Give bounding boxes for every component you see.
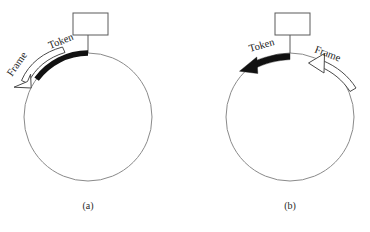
token-label-b: Token [248,36,277,54]
caption-a: (a) [82,200,93,212]
caption-b: (b) [284,200,296,212]
station-box-b [275,13,310,35]
panel-b: Token Frame (b) [226,13,356,212]
token-ring-figure: Token Frame (a) Token Frame [0,0,370,232]
panel-a: Token Frame (a) [5,13,152,212]
station-box-a [73,13,108,35]
figure-container: Token Frame (a) Token Frame [0,0,370,232]
token-arrow-b [240,53,291,73]
